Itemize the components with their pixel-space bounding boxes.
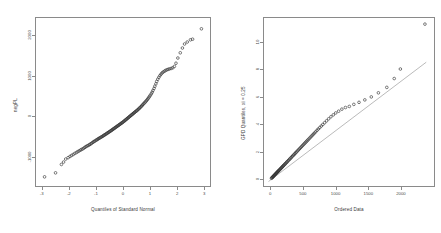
data-point <box>348 105 351 108</box>
x-tick-label: 2000 <box>396 191 406 196</box>
data-point <box>327 117 330 120</box>
x-tick-mark <box>69 187 70 190</box>
data-point <box>424 23 427 26</box>
x-tick-mark <box>204 187 205 190</box>
x-tick-label: 1000 <box>331 191 341 196</box>
x-tick-mark <box>42 187 43 190</box>
data-point <box>332 114 335 117</box>
data-point <box>186 41 189 44</box>
x-tick-mark <box>303 187 304 190</box>
y-tick-mark <box>260 69 263 70</box>
x-tick-label: 1500 <box>364 191 374 196</box>
plot-frame-right <box>263 17 435 187</box>
y-axis-title-left: negPL <box>13 98 18 112</box>
data-point <box>177 57 180 60</box>
x-tick-label: 3 <box>203 191 205 196</box>
x-tick-label: -3 <box>40 191 44 196</box>
data-point <box>334 112 337 115</box>
y-tick-mark <box>260 42 263 43</box>
y-tick-label: 8 <box>255 68 260 70</box>
y-tick-label: -1000 <box>27 151 32 162</box>
x-tick-label: -2 <box>67 191 71 196</box>
data-point <box>43 176 46 179</box>
x-tick-mark <box>177 187 178 190</box>
scatter-points-right <box>264 18 434 186</box>
data-point <box>200 27 203 30</box>
plot-frame-left <box>35 17 211 187</box>
y-tick-label: 4 <box>255 123 260 125</box>
data-point <box>341 108 344 111</box>
data-point <box>60 163 63 166</box>
data-point <box>62 161 65 164</box>
data-point <box>183 43 186 46</box>
y-tick-label: 10 <box>255 39 260 44</box>
data-point <box>399 68 402 71</box>
x-tick-label: 0 <box>269 191 271 196</box>
data-point <box>330 115 333 118</box>
reference-line <box>269 62 427 181</box>
data-point <box>353 103 356 106</box>
x-tick-mark <box>96 187 97 190</box>
x-tick-label: 500 <box>299 191 306 196</box>
x-tick-label: 1 <box>149 191 151 196</box>
data-point <box>358 101 361 104</box>
data-point <box>175 62 178 65</box>
chart-panel-right: 0500100015002000 0246810 Ordered Data GP… <box>221 0 441 233</box>
y-tick-mark <box>32 76 35 77</box>
x-tick-mark <box>270 187 271 190</box>
y-tick-mark <box>32 157 35 158</box>
x-tick-label: -1 <box>94 191 98 196</box>
y-tick-mark <box>260 124 263 125</box>
data-point <box>54 172 57 175</box>
data-point <box>377 91 380 94</box>
x-axis-title-left: Quantiles of Standard Normal <box>35 207 211 212</box>
y-tick-mark <box>260 152 263 153</box>
data-point <box>393 77 396 80</box>
x-tick-mark <box>336 187 337 190</box>
figure-container: -3-2-10123 -1000010002000 Quantiles of S… <box>0 0 441 233</box>
data-point <box>363 99 366 102</box>
y-tick-label: 6 <box>255 96 260 98</box>
x-tick-mark <box>150 187 151 190</box>
x-axis-title-right: Ordered Data <box>263 207 435 212</box>
data-point <box>344 106 347 109</box>
data-point <box>370 96 373 99</box>
y-tick-mark <box>260 97 263 98</box>
x-tick-mark <box>401 187 402 190</box>
y-tick-label: 1000 <box>27 71 32 81</box>
y-tick-label: 2 <box>255 151 260 153</box>
x-tick-mark <box>368 187 369 190</box>
y-tick-label: 0 <box>27 115 32 117</box>
y-tick-mark <box>32 35 35 36</box>
x-tick-mark <box>123 187 124 190</box>
y-axis-title-right: GPD Quantiles, xi = 0.25 <box>241 86 246 140</box>
x-tick-label: 2 <box>176 191 178 196</box>
y-tick-mark <box>260 179 263 180</box>
scatter-points-left <box>36 18 210 186</box>
data-point <box>337 110 340 113</box>
y-tick-label: 0 <box>255 178 260 180</box>
chart-panel-left: -3-2-10123 -1000010002000 Quantiles of S… <box>0 0 221 233</box>
x-tick-label: 0 <box>122 191 124 196</box>
y-tick-mark <box>32 116 35 117</box>
data-point <box>385 86 388 89</box>
y-tick-label: 2000 <box>27 30 32 40</box>
data-point <box>181 47 184 50</box>
data-point <box>179 51 182 54</box>
